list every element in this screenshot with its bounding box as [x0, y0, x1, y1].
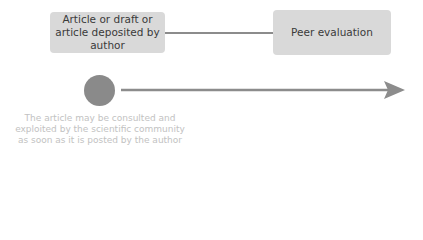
timeline-caption: The article may be consulted and exploit… [10, 113, 190, 146]
